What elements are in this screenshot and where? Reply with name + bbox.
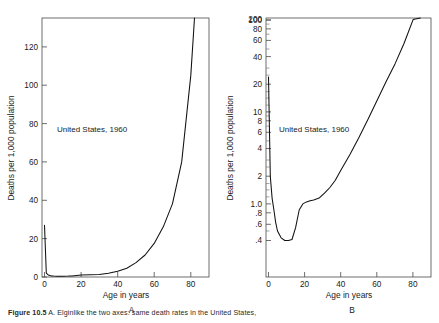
panel-a-plot: 0 20 40 60 80 100 120 0 20 40 60 80: [0, 0, 219, 300]
panel-b-xtick-60: 60: [372, 280, 382, 289]
panel-b-ytick-2: 2: [257, 172, 262, 181]
panel-a-ytick-60: 60: [29, 158, 39, 167]
panel-b-frame: [266, 18, 431, 277]
panel-a-ytick-40: 40: [29, 196, 39, 205]
panel-a-annotation: United States, 1960: [57, 125, 128, 134]
panel-a-xtick-40: 40: [113, 280, 123, 289]
panel-b-y-axis: .4 .6 .8 1.0 2 4 6 8 10 20 40 60 80 100: [248, 16, 271, 246]
figure-caption: Figure 10.5 A. Elginlike the two axes: s…: [8, 309, 435, 318]
figure-caption-lead: Figure 10.5: [8, 309, 47, 317]
panel-b-ytick-40: 40: [253, 53, 263, 62]
panel-a-frame: [42, 18, 209, 277]
panel-b-ytick-20: 20: [253, 80, 263, 89]
panel-b-y-axis-title: Deaths per 1,000 population: [225, 95, 235, 201]
panel-b-ytick-80: 80: [253, 25, 263, 34]
panel-b-ytick-0p6: .6: [255, 220, 262, 229]
panel-b-ytick-4: 4: [257, 144, 262, 153]
panel-b-ytick-0p4: .4: [255, 236, 262, 245]
panel-b-annotation: United States, 1960: [279, 125, 350, 134]
panel-a-ytick-20: 20: [29, 235, 39, 244]
panel-b-xtick-40: 40: [336, 280, 346, 289]
panel-a-ytick-120: 120: [24, 43, 38, 52]
panel-a-x-axis: 0 20 40 60 80: [42, 272, 196, 289]
figure-container: 0 20 40 60 80 100 120 0 20 40 60 80: [0, 0, 439, 323]
panel-b-ytick-0p8: .8: [255, 209, 262, 218]
panel-b-ytick-10: 10: [253, 108, 263, 117]
panel-a-xtick-80: 80: [186, 280, 196, 289]
panel-b-ytick-6: 6: [257, 128, 262, 137]
panel-a-xtick-60: 60: [150, 280, 160, 289]
panel-b-ytick-8: 8: [257, 117, 262, 126]
panel-a-ytick-100: 100: [24, 81, 38, 90]
panel-b-plot: .4 .6 .8 1.0 2 4 6 8 10 20 40 60 80 100 …: [219, 0, 439, 300]
panel-b-ytick-1p0: 1.0: [251, 200, 263, 209]
panel-b-xtick-80: 80: [408, 280, 418, 289]
panel-a-mortality-curve: [45, 18, 195, 276]
panel-a-ytick-80: 80: [29, 120, 39, 129]
panel-a-y-axis: 0 20 40 60 80 100 120: [24, 43, 47, 282]
panel-a-ytick-0: 0: [33, 273, 38, 282]
figure-caption-text: A. Elginlike the two axes: same death ra…: [47, 309, 257, 317]
panel-a-xtick-20: 20: [77, 280, 87, 289]
panel-b: .4 .6 .8 1.0 2 4 6 8 10 20 40 60 80 100 …: [219, 0, 439, 300]
panel-b-xtick-0: 0: [266, 280, 271, 289]
panel-b-ytick-60: 60: [253, 36, 263, 45]
panel-a-y-axis-title: Deaths per 1,000 population: [6, 95, 16, 201]
panel-b-xtick-20: 20: [300, 280, 310, 289]
panel-b-x-axis: 0 20 40 60 80: [266, 272, 418, 289]
panel-b-ytick-200: 200: [248, 15, 262, 24]
panel-a: 0 20 40 60 80 100 120 0 20 40 60 80: [0, 0, 219, 300]
panel-a-xtick-0: 0: [42, 280, 47, 289]
